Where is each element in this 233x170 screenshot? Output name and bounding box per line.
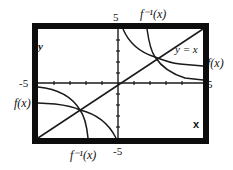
label-f-left: f(x) [14, 97, 31, 109]
tick-label-bottom: -5 [113, 146, 122, 157]
label-finv-top: f⁻¹(x) [140, 8, 166, 20]
tick-label-top: 5 [113, 12, 119, 23]
tick-label-left: -5 [19, 78, 28, 89]
label-f-right: f(x) [207, 57, 224, 69]
label-finv-bottom: f⁻¹(x) [70, 149, 96, 161]
label-y-equals-x: y = x [175, 44, 198, 55]
tick-label-right: 5 [207, 79, 213, 90]
y-axis-label: y [38, 41, 43, 52]
x-axis-label: x [193, 119, 199, 130]
